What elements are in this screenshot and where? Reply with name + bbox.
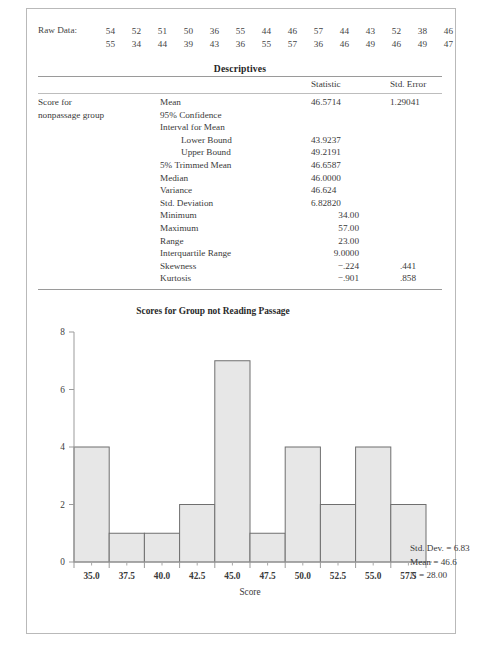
y-axis-tick-label: 6	[60, 385, 65, 395]
x-axis-tick-label: 50.0	[295, 571, 312, 581]
table-row: Upper Bound 49.2191	[38, 147, 442, 160]
raw-data-value: 34	[115, 38, 141, 51]
table-row: Interval for Mean	[38, 122, 442, 135]
x-axis-tick-label: 45.0	[224, 571, 241, 581]
raw-data-value: 49	[401, 38, 427, 51]
stat-value: 57.00	[311, 223, 359, 233]
raw-data-row: 5534443943365557364649464947	[89, 38, 453, 51]
stat-label: Kurtosis	[160, 273, 191, 283]
chart-title: Scores for Group not Reading Passage	[38, 306, 388, 316]
x-axis-tick-label: 55.0	[365, 571, 382, 581]
raw-data-value: 36	[219, 38, 245, 51]
y-axis-tick-label: 2	[60, 500, 65, 510]
table-row: Score for Mean 46.5714 1.29041	[38, 97, 442, 110]
raw-data-value: 39	[167, 38, 193, 51]
stat-label: Mean	[160, 97, 181, 107]
raw-data-value: 55	[89, 38, 115, 51]
table-row: Variance 46.624	[38, 185, 442, 198]
stat-label: Upper Bound	[181, 147, 231, 157]
column-header-statistic: Statistic	[311, 79, 341, 89]
x-axis-tick-label: 37.5	[119, 571, 136, 581]
raw-data-value: 36	[297, 38, 323, 51]
histogram-bar	[144, 533, 179, 562]
stat-label: Interval for Mean	[160, 122, 225, 132]
raw-data-value: 44	[323, 25, 349, 38]
raw-data-value: 46	[271, 25, 297, 38]
stat-value: −.224	[311, 261, 359, 271]
chart-annotations: Std. Dev. = 6.83 Mean = 46.6 N = 28.00	[410, 542, 470, 583]
histogram-bar	[215, 361, 250, 562]
descriptives-table: Descriptives Statistic Std. Error Score …	[38, 63, 442, 290]
stat-label: Maximum	[160, 223, 198, 233]
raw-data-value: 36	[193, 25, 219, 38]
stderr-value: 1.29041	[390, 97, 420, 107]
raw-data-value: 54	[89, 25, 115, 38]
histogram-bar	[356, 447, 391, 562]
histogram-bar	[250, 533, 285, 562]
stat-label: 95% Confidence	[160, 110, 222, 120]
table-row: Maximum 57.00	[38, 223, 442, 236]
table-row: Skewness −.224 .441	[38, 261, 442, 274]
x-axis-tick-label: 40.0	[154, 571, 171, 581]
annotation-mean: Mean = 46.6	[410, 556, 470, 570]
stat-label: Lower Bound	[181, 135, 232, 145]
histogram-bar	[320, 505, 355, 563]
stat-value: 43.9237	[311, 135, 369, 145]
stat-value: 23.00	[311, 236, 359, 246]
raw-data-value: 44	[245, 25, 271, 38]
table-row: 5% Trimmed Mean 46.6587	[38, 160, 442, 173]
table-row: Median 46.0000	[38, 173, 442, 186]
raw-data-row: 5452515036554446574443523846	[89, 25, 453, 38]
raw-data-value: 50	[167, 25, 193, 38]
histogram-bar	[180, 505, 215, 563]
table-row: Minimum 34.00	[38, 210, 442, 223]
raw-data-value: 52	[375, 25, 401, 38]
column-header-std-error: Std. Error	[390, 79, 426, 89]
x-axis-tick-label: 47.5	[259, 571, 276, 581]
raw-data-value: 46	[375, 38, 401, 51]
raw-data-value: 46	[427, 25, 453, 38]
stat-label: Skewness	[160, 261, 196, 271]
raw-data-value: 38	[401, 25, 427, 38]
histogram-bar	[74, 447, 109, 562]
stat-label: Interquartile Range	[160, 248, 231, 258]
x-axis-tick-label: 42.5	[189, 571, 206, 581]
y-axis-tick-label: 8	[60, 327, 65, 337]
histogram-bar	[109, 533, 144, 562]
stat-label: 5% Trimmed Mean	[160, 160, 231, 170]
stat-value: 46.0000	[311, 173, 369, 183]
stat-label: Std. Deviation	[160, 198, 213, 208]
stat-value: 34.00	[311, 210, 359, 220]
raw-data-value: 46	[323, 38, 349, 51]
stat-value: 46.624	[311, 185, 369, 195]
table-row: Lower Bound 43.9237	[38, 135, 442, 148]
stat-label: Median	[160, 173, 188, 183]
raw-data-value: 47	[427, 38, 453, 51]
table-row: Std. Deviation 6.82820	[38, 198, 442, 211]
stat-value: 49.2191	[311, 147, 369, 157]
stat-value: 9.0000	[311, 248, 359, 258]
descriptives-header-row: Statistic Std. Error	[38, 77, 442, 93]
raw-data-value: 49	[349, 38, 375, 51]
annotation-n: N = 28.00	[410, 569, 470, 583]
group-label-line2: nonpassage group	[38, 110, 104, 120]
stderr-value: .858	[376, 273, 416, 283]
stat-value: 46.5714	[311, 97, 369, 107]
raw-data-value: 43	[349, 25, 375, 38]
x-axis-title: Score	[239, 587, 260, 597]
raw-data-label: Raw Data:	[38, 25, 77, 35]
x-axis-tick-label: 52.5	[330, 571, 347, 581]
table-row: Range 23.00	[38, 236, 442, 249]
stat-label: Variance	[160, 185, 192, 195]
raw-data-values: 5452515036554446574443523846 55344439433…	[89, 25, 453, 51]
raw-data-value: 52	[115, 25, 141, 38]
x-axis-tick-label: 35.0	[83, 571, 100, 581]
raw-data-value: 57	[297, 25, 323, 38]
stat-value: −.901	[311, 273, 359, 283]
table-row: Kurtosis −.901 .858	[38, 273, 442, 286]
stat-value: 46.6587	[311, 160, 369, 170]
annotation-std-dev: Std. Dev. = 6.83	[410, 542, 470, 556]
raw-data-value: 57	[271, 38, 297, 51]
stat-value: 6.82820	[311, 198, 369, 208]
histogram-chart: Scores for Group not Reading Passage 024…	[38, 306, 442, 626]
